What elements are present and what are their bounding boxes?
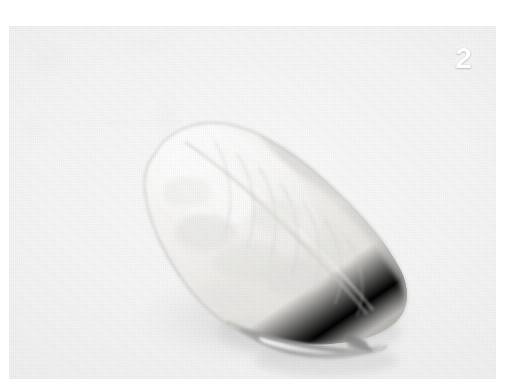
plate-page: 2 — [0, 0, 510, 391]
photo-film-grain — [9, 26, 496, 379]
specimen-photograph: 2 — [9, 26, 496, 379]
specimen-number-label: 2 — [455, 43, 472, 73]
